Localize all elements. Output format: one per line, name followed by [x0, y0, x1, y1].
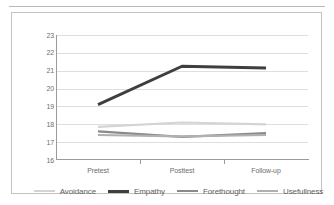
y-axis-tick-label: 23 — [30, 32, 54, 39]
legend-item-avoidance[interactable]: Avoidance — [34, 187, 96, 196]
y-axis-tick-label: 20 — [30, 85, 54, 92]
series-line-empathy — [98, 66, 266, 104]
page-top-rule — [9, 6, 325, 7]
series-line-avoidance — [98, 123, 266, 127]
legend-swatch-icon — [108, 190, 129, 193]
legend-label: Usefullness — [283, 187, 323, 196]
legend-item-usefullness[interactable]: Usefullness — [257, 187, 323, 196]
y-axis-tick-label: 17 — [30, 139, 54, 146]
series-line-usefullness — [98, 135, 266, 136]
chart-legend: AvoidanceEmpathyForethoughtUsefullness — [26, 183, 331, 199]
legend-swatch-icon — [257, 190, 278, 192]
legend-label: Forethought — [203, 187, 245, 196]
legend-swatch-icon — [177, 190, 198, 192]
line-chart: 2322212019181716 PretestPosttestFollow-u… — [11, 12, 322, 194]
x-axis-tick-label: Follow-up — [231, 167, 301, 175]
y-axis-tick-label: 19 — [30, 103, 54, 110]
y-axis-tick-label: 21 — [30, 67, 54, 74]
legend-item-forethought[interactable]: Forethought — [177, 187, 245, 196]
y-axis-tick-label: 18 — [30, 121, 54, 128]
y-axis-tick-label: 16 — [30, 157, 54, 164]
legend-label: Empathy — [134, 187, 165, 196]
x-axis-tick-label: Posttest — [147, 167, 217, 175]
legend-swatch-icon — [34, 190, 55, 192]
x-axis-tick-label: Pretest — [63, 167, 133, 175]
y-axis-tick-label: 22 — [30, 49, 54, 56]
legend-label: Avoidance — [60, 187, 96, 196]
series-lines — [56, 35, 308, 160]
legend-item-empathy[interactable]: Empathy — [108, 187, 165, 196]
